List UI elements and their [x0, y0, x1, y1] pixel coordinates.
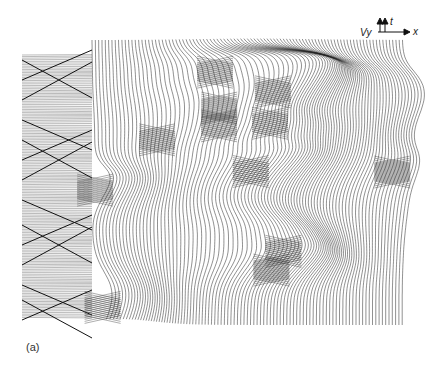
figure-canvas	[0, 0, 444, 382]
v-axis-label: Vy	[360, 27, 372, 38]
waterfall-surface-region	[77, 39, 424, 325]
left-ray-region	[22, 50, 92, 338]
axis-glyph	[377, 18, 410, 35]
t-axis-label: t	[390, 16, 393, 27]
panel-label: (a)	[26, 341, 39, 353]
x-axis-label: x	[413, 26, 418, 37]
